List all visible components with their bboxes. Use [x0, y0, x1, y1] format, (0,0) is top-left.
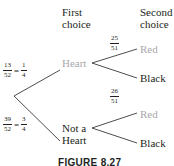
numerator: 39 [3, 116, 12, 125]
branch-notheart-red [92, 113, 137, 128]
node-red-after-not-heart: Red [140, 108, 158, 120]
header-second-choice: Second choice [140, 6, 172, 30]
prob-black-given-heart: 26 51 [110, 86, 119, 105]
denominator: 51 [111, 44, 118, 52]
numerator: 26 [110, 88, 119, 97]
header-first-line2: choice [62, 18, 91, 30]
node-black-after-heart: Black [140, 72, 166, 84]
denominator: 4 [22, 71, 26, 79]
numerator: 13 [3, 62, 12, 71]
fraction-3-4: 3 4 [21, 116, 27, 133]
prob-heart: 13 52 = 1 4 [3, 62, 27, 79]
node-heart: Heart [62, 57, 86, 69]
numerator: 1 [21, 62, 27, 71]
node-black-after-not-heart: Black [140, 137, 166, 149]
fraction-25-51: 25 51 [110, 35, 119, 52]
header-first-choice: First choice [62, 6, 91, 30]
denominator: 52 [4, 71, 11, 79]
fraction-39-52: 39 52 [3, 116, 12, 133]
branch-heart-black [92, 63, 137, 78]
prob-red-given-heart: 25 51 [110, 33, 119, 52]
equals-sign: = [14, 120, 19, 130]
denominator: 51 [111, 97, 118, 105]
numerator: 25 [110, 35, 119, 44]
node-not-heart-line2: Heart [62, 134, 86, 146]
fraction-13-52: 13 52 [3, 62, 12, 79]
header-first-line1: First [62, 6, 91, 18]
denominator: 4 [22, 125, 26, 133]
header-second-line2: choice [140, 18, 172, 30]
header-second-line1: Second [140, 6, 172, 18]
node-not-heart-line1: Not a [62, 122, 86, 134]
equals-sign: = [14, 66, 19, 76]
figure-caption: FIGURE 8.27 [58, 157, 121, 166]
numerator: 3 [21, 116, 27, 125]
node-red-after-heart: Red [140, 43, 158, 55]
prob-not-heart: 39 52 = 3 4 [3, 116, 27, 133]
branch-notheart-black [92, 128, 137, 143]
fraction-26-51: 26 51 [110, 88, 119, 105]
denominator: 52 [4, 125, 11, 133]
fraction-1-4: 1 4 [21, 62, 27, 79]
node-not-heart: Not a Heart [62, 122, 86, 146]
